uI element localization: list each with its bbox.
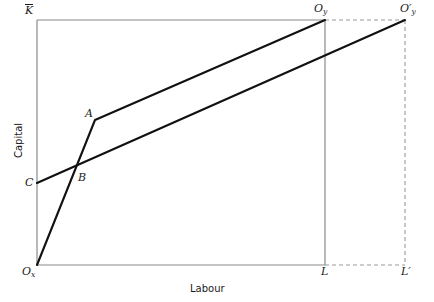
origin-y-prime-subscript: y <box>412 7 416 16</box>
origin-y-prime-letter: O <box>400 2 409 15</box>
origin-y-prime-label: O′y <box>400 3 416 16</box>
point-c-label: C <box>25 177 33 188</box>
origin-y-subscript: y <box>323 7 327 16</box>
point-a-label: A <box>85 108 93 119</box>
diagram-canvas <box>0 0 434 302</box>
origin-y-label: Oy <box>314 3 327 16</box>
capital-endowment-label: K <box>25 5 33 16</box>
capital-endowment-text: K <box>25 5 33 16</box>
origin-y-letter: O <box>314 2 323 15</box>
origin-x-subscript: x <box>31 270 35 279</box>
capital-axis-title: Capital <box>14 123 24 158</box>
contract-curve-c-oyprime <box>37 20 405 183</box>
labour-axis-title: Labour <box>190 284 225 294</box>
point-b-label: B <box>78 172 86 183</box>
edgeworth-box-figure: Capital Labour K Ox Oy O′y L L′ A B C <box>0 0 434 302</box>
contract-curve-ox-a-oy <box>37 20 325 265</box>
origin-x-label: Ox <box>22 266 35 279</box>
labour-endowment-prime-label: L′ <box>401 266 411 277</box>
labour-endowment-label: L <box>321 266 328 277</box>
origin-x-letter: O <box>22 265 31 278</box>
